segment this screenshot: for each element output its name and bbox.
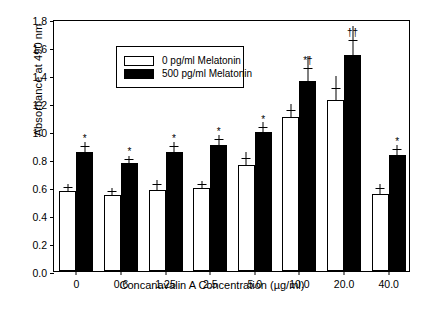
significance-marker: *† [303,56,312,66]
figure: Absorbance at 490 nm Concanavalin A Conc… [0,0,424,313]
bar: *† [299,81,316,271]
error-bar-cap [376,188,385,189]
bar [372,194,389,271]
error-bar-cap [63,187,72,188]
bar-group: * [372,21,406,271]
x-tick-label: 40.0 [378,278,398,290]
bar-group: †† [327,21,361,271]
error-bar-cap [242,158,251,159]
significance-marker: †† [347,28,358,38]
x-tick-mark [76,271,77,275]
significance-marker: * [83,134,87,144]
error-bar-cap [170,146,179,147]
bar: * [121,163,138,271]
bar: * [76,152,93,271]
error-bar-cap [259,127,268,128]
x-tick-mark [210,271,211,275]
bar: * [210,145,227,271]
significance-marker: * [395,137,399,147]
bar [327,100,344,271]
bar [238,165,255,271]
bar [193,188,210,271]
y-tick-mark [50,105,54,106]
x-tick-label: 5.0 [248,278,263,290]
x-tick-mark [254,271,255,275]
legend-label: 500 pg/ml Melatonin [162,68,252,79]
y-tick-mark [50,77,54,78]
y-tick-mark [50,21,54,22]
bar [59,191,76,271]
x-tick-label: 1.25 [155,278,175,290]
significance-marker: * [261,115,265,125]
bar: * [255,132,272,271]
error-bar [290,104,291,118]
significance-marker: * [172,134,176,144]
legend-swatch-filled [124,69,154,79]
x-tick-mark [299,271,300,275]
y-tick-mark [50,217,54,218]
error-bar-cap [348,40,357,41]
error-bar-cap [108,191,117,192]
y-tick-mark [50,161,54,162]
bar: * [166,152,183,271]
x-tick-label: 2.5 [203,278,218,290]
x-tick-mark [388,271,389,275]
x-tick-mark [120,271,121,275]
significance-marker: * [127,147,131,157]
bar: †† [344,55,361,271]
x-tick-label: 20.0 [334,278,354,290]
error-bar-cap [286,110,295,111]
y-tick-mark [50,133,54,134]
bar: * [389,155,406,271]
x-tick-label: 10.0 [289,278,309,290]
error-bar-cap [214,139,223,140]
x-tick-label: 0 [73,278,79,290]
y-tick-mark [50,189,54,190]
error-bar-cap [393,149,402,150]
error-bar-cap [80,146,89,147]
error-bar-cap [331,88,340,89]
x-tick-mark [165,271,166,275]
legend-item: 0 pg/ml Melatonin [124,55,236,66]
x-tick-label: 0.6 [114,278,129,290]
plot-area: 0.00.20.40.60.81.01.21.41.61.8 00.61.252… [53,20,410,272]
bar [282,117,299,271]
bar-group: * [59,21,93,271]
error-bar [380,184,381,195]
x-tick-mark [344,271,345,275]
bar-group: *† [282,21,316,271]
legend: 0 pg/ml Melatonin 500 pg/ml Melatonin [116,46,244,88]
y-tick-mark [50,245,54,246]
error-bar-cap [303,68,312,69]
significance-marker: * [217,127,221,137]
legend-swatch-open [124,56,154,66]
y-tick-mark [50,49,54,50]
error-bar-cap [153,184,162,185]
bar [104,195,121,271]
error-bar [246,152,247,166]
error-bar [335,76,336,101]
legend-item: 500 pg/ml Melatonin [124,68,236,79]
error-bar [157,180,158,191]
y-tick-mark [50,273,54,274]
error-bar-cap [125,159,134,160]
error-bar-cap [197,184,206,185]
legend-label: 0 pg/ml Melatonin [162,55,241,66]
bar [149,190,166,271]
